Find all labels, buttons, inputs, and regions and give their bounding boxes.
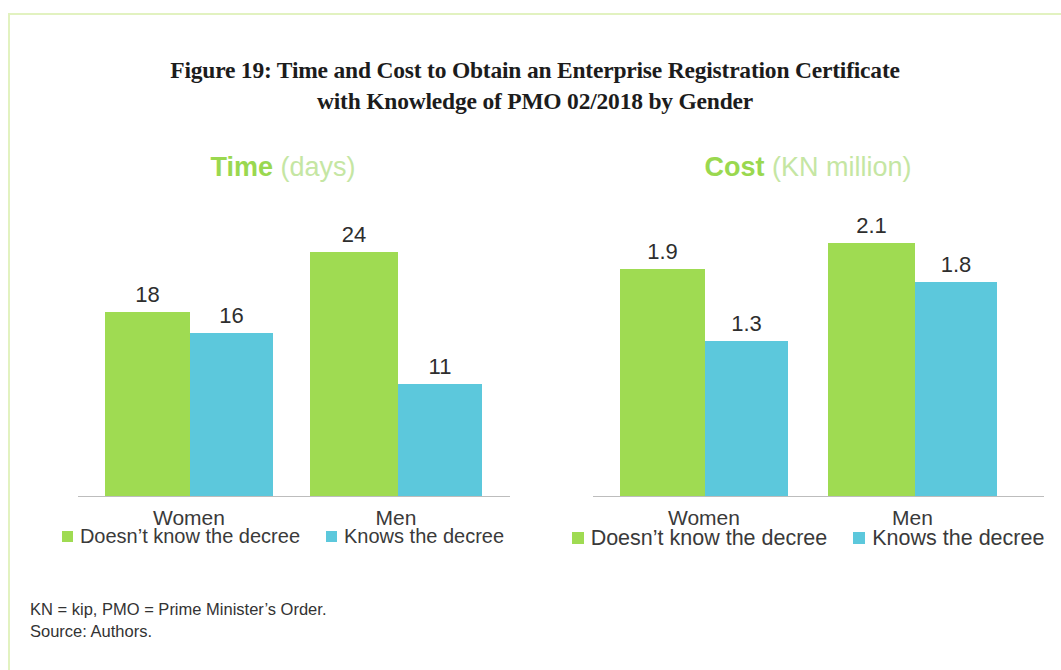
bar-value-time-women-doesnt-know: 18 <box>105 283 190 307</box>
legend-cost: Doesn’t know the decree Knows the decree <box>558 526 1058 550</box>
legend-swatch-green-icon <box>572 532 584 544</box>
panel-subtitle-cost-unit: (KN million) <box>772 152 912 182</box>
chart-panel-cost: Cost (KN million) 1.9 1.3 2.1 1.8 Women … <box>558 150 1058 590</box>
bar-value-time-men-doesnt-know: 24 <box>310 223 398 247</box>
chart-panel-time: Time (days) 18 16 24 11 Women Men Doesn’… <box>28 150 538 590</box>
bar-time-women-knows[interactable] <box>190 333 273 496</box>
legend-item-doesnt-know[interactable]: Doesn’t know the decree <box>572 526 828 550</box>
bar-cost-men-knows[interactable] <box>915 282 997 496</box>
footnotes: KN = kip, PMO = Prime Minister’s Order. … <box>30 598 326 642</box>
bar-value-cost-men-knows: 1.8 <box>915 253 997 277</box>
bar-value-cost-women-doesnt-know: 1.9 <box>620 240 705 264</box>
legend-label-knows: Knows the decree <box>872 526 1044 550</box>
figure-title-line-2: with Knowledge of PMO 02/2018 by Gender <box>60 86 1010 117</box>
legend-label-doesnt-know: Doesn’t know the decree <box>591 526 828 550</box>
legend-item-knows[interactable]: Knows the decree <box>326 524 504 548</box>
panel-subtitle-time-unit: (days) <box>281 152 356 182</box>
bar-time-men-knows[interactable] <box>398 384 482 496</box>
legend-label-doesnt-know: Doesn’t know the decree <box>80 524 300 548</box>
legend-swatch-blue-icon <box>326 531 337 542</box>
x-axis-line-time <box>78 496 510 497</box>
legend-item-knows[interactable]: Knows the decree <box>853 526 1044 550</box>
legend-swatch-blue-icon <box>853 532 865 544</box>
bar-value-cost-women-knows: 1.3 <box>705 312 788 336</box>
bar-cost-men-doesnt-know[interactable] <box>828 243 915 496</box>
legend-time: Doesn’t know the decree Knows the decree <box>28 524 538 548</box>
figure-title: Figure 19: Time and Cost to Obtain an En… <box>60 55 1010 117</box>
bar-time-women-doesnt-know[interactable] <box>105 312 190 496</box>
figure-title-line-1: Figure 19: Time and Cost to Obtain an En… <box>170 57 900 83</box>
panel-subtitle-time: Time (days) <box>28 150 538 184</box>
bar-cost-women-knows[interactable] <box>705 341 788 496</box>
legend-swatch-green-icon <box>62 531 73 542</box>
bar-time-men-doesnt-know[interactable] <box>310 252 398 496</box>
legend-label-knows: Knows the decree <box>344 524 504 548</box>
footnote-abbreviations: KN = kip, PMO = Prime Minister’s Order. <box>30 598 326 620</box>
bar-value-time-women-knows: 16 <box>190 304 273 328</box>
plot-area-time: 18 16 24 11 <box>28 202 538 497</box>
bar-cost-women-doesnt-know[interactable] <box>620 269 705 496</box>
plot-area-cost: 1.9 1.3 2.1 1.8 <box>558 202 1058 497</box>
footnote-source: Source: Authors. <box>30 620 326 642</box>
legend-item-doesnt-know[interactable]: Doesn’t know the decree <box>62 524 300 548</box>
panel-subtitle-cost-strong: Cost <box>704 152 764 182</box>
panel-subtitle-time-strong: Time <box>210 152 273 182</box>
bar-value-time-men-knows: 11 <box>398 355 482 379</box>
x-axis-line-cost <box>593 496 1044 497</box>
panel-subtitle-cost: Cost (KN million) <box>558 150 1058 184</box>
bar-value-cost-men-doesnt-know: 2.1 <box>828 214 915 238</box>
